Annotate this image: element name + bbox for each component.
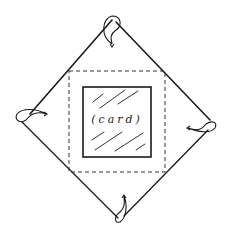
- right-flap-arrow-icon: [187, 122, 216, 132]
- card-label: (card): [91, 113, 143, 126]
- envelope-fold-diagram: (card): [0, 0, 234, 243]
- bottom-flap-arrow-icon: [116, 195, 127, 222]
- card: (card): [83, 87, 151, 157]
